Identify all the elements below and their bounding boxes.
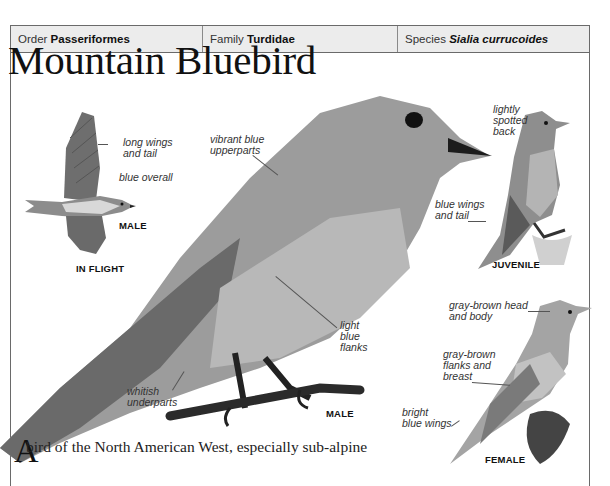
- label-light-blue-flanks: lightblueflanks: [340, 320, 367, 353]
- label-vibrant-blue: vibrant blueupperparts: [210, 134, 264, 156]
- intro-text: bird of the North American West, especia…: [26, 438, 367, 456]
- caption-main-male: MALE: [326, 408, 354, 419]
- leader-line: [528, 311, 550, 312]
- caption-female: FEMALE: [485, 454, 525, 465]
- label-lightly-spotted: lightlyspottedback: [493, 104, 527, 137]
- label-bright-blue-wings: brightblue wings: [402, 407, 452, 429]
- label-blue-wings-tail: blue wingsand tail: [435, 199, 485, 221]
- species-label: Species: [405, 33, 446, 45]
- taxonomy-species: Species Sialia currucoides: [398, 26, 589, 52]
- label-gray-brown-flanks: gray-brownflanks andbreast: [443, 349, 496, 382]
- species-value: Sialia currucoides: [449, 33, 548, 45]
- leader-line: [468, 221, 486, 222]
- caption-juvenile: JUVENILE: [492, 259, 540, 270]
- label-whitish-underparts: whitishunderparts: [127, 386, 177, 408]
- label-gray-brown-head: gray-brown headand body: [449, 300, 528, 322]
